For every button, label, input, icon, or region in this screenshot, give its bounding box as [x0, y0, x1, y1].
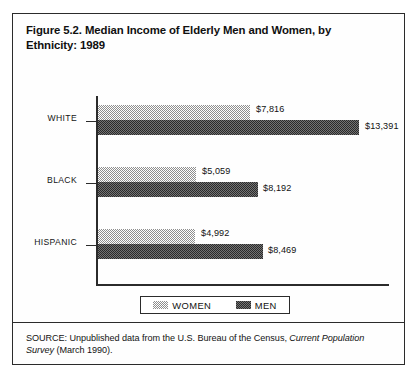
- category-tick-hispanic: [86, 245, 97, 246]
- category-tick-white: [86, 121, 97, 122]
- legend-label-men: MEN: [255, 300, 277, 311]
- bar-value-black-men: $8,192: [263, 183, 291, 193]
- source-suffix: (March 1990).: [54, 345, 112, 355]
- bar-black-women: [98, 167, 197, 182]
- bar-value-hispanic-men: $8,469: [268, 245, 296, 255]
- x-axis-line: [96, 284, 389, 286]
- bar-white-women: [98, 105, 251, 120]
- bar-group-black: BLACK $5,059 $8,192: [13, 156, 406, 211]
- category-label-white: WHITE: [0, 113, 77, 123]
- bar-group-hispanic: HISPANIC $4,992 $8,469: [13, 218, 406, 273]
- legend-label-women: WOMEN: [172, 300, 211, 311]
- dark-dither-swatch-icon: [236, 301, 251, 309]
- category-label-hispanic: HISPANIC: [0, 237, 77, 247]
- chart-legend: WOMEN MEN: [140, 296, 290, 314]
- source-note: SOURCE: Unpublished data from the U.S. B…: [26, 332, 378, 357]
- bar-white-men: [98, 120, 360, 135]
- chart-plot-area: WHITE $7,816 $13,391 BLACK $5,059 $8,192…: [13, 86, 406, 286]
- legend-item-men: MEN: [236, 300, 277, 311]
- category-label-black: BLACK: [0, 175, 77, 185]
- bar-group-white: WHITE $7,816 $13,391: [13, 94, 406, 149]
- bar-value-black-women: $5,059: [202, 166, 230, 176]
- bar-hispanic-women: [98, 229, 196, 244]
- figure-title: Figure 5.2. Median Income of Elderly Men…: [26, 23, 376, 52]
- legend-item-women: WOMEN: [153, 300, 211, 311]
- figure-container: Figure 5.2. Median Income of Elderly Men…: [12, 13, 405, 365]
- bar-hispanic-men: [98, 244, 263, 259]
- bar-value-white-women: $7,816: [256, 104, 284, 114]
- source-divider: [13, 322, 404, 323]
- source-prefix: SOURCE: Unpublished data from the U.S. B…: [26, 333, 289, 343]
- bar-value-hispanic-women: $4,992: [201, 228, 229, 238]
- bar-value-white-men: $13,391: [365, 121, 399, 131]
- category-tick-black: [86, 183, 97, 184]
- bar-black-men: [98, 182, 258, 197]
- light-dither-swatch-icon: [153, 301, 168, 309]
